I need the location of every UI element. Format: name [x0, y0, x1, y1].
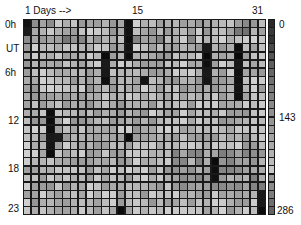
heatmap-cell: [219, 77, 225, 84]
heatmap-cell: [55, 191, 61, 198]
heatmap-cell: [87, 36, 93, 43]
heatmap-cell: [235, 150, 241, 157]
heatmap-cell: [40, 199, 46, 206]
heatmap-cell: [47, 85, 53, 92]
heatmap-cell: [243, 110, 249, 117]
heatmap-cell: [204, 53, 210, 60]
heatmap-cell: [251, 175, 257, 182]
heatmap-cell: [157, 93, 163, 100]
heatmap-grid: [23, 19, 266, 215]
heatmap-cell: [204, 20, 210, 27]
heatmap-cell: [24, 191, 30, 198]
heatmap-cell: [126, 183, 132, 190]
heatmap-cell: [102, 150, 108, 157]
heatmap-cell: [47, 183, 53, 190]
heatmap-cell: [149, 28, 155, 35]
heatmap-cell: [63, 134, 69, 141]
heatmap-cell: [157, 167, 163, 174]
heatmap-cell: [118, 175, 124, 182]
heatmap-cell: [227, 28, 233, 35]
heatmap-cell: [157, 77, 163, 84]
heatmap-cell: [71, 20, 77, 27]
y-tick-12: 12: [8, 116, 19, 126]
y-axis-label-ut: UT: [6, 44, 19, 54]
heatmap-cell: [235, 191, 241, 198]
heatmap-cell: [227, 118, 233, 125]
heatmap-cell: [141, 118, 147, 125]
heatmap-cell: [196, 207, 202, 214]
heatmap-cell: [251, 134, 257, 141]
heatmap-cell: [63, 53, 69, 60]
heatmap-cell: [133, 77, 139, 84]
colorbar-block: [269, 134, 274, 141]
heatmap-cell: [259, 93, 265, 100]
heatmap-cell: [212, 199, 218, 206]
heatmap-cell: [63, 85, 69, 92]
heatmap-cell: [204, 183, 210, 190]
heatmap-cell: [94, 126, 100, 133]
colorbar-tick-0: 0: [279, 20, 285, 30]
heatmap-cell: [180, 44, 186, 51]
heatmap-cell: [227, 207, 233, 214]
heatmap-cell: [212, 183, 218, 190]
heatmap-cell: [243, 36, 249, 43]
heatmap-cell: [259, 61, 265, 68]
heatmap-cell: [219, 158, 225, 165]
heatmap-cell: [173, 36, 179, 43]
heatmap-cell: [227, 93, 233, 100]
heatmap-cell: [133, 207, 139, 214]
heatmap-cell: [32, 142, 38, 149]
heatmap-cell: [251, 44, 257, 51]
heatmap-cell: [110, 207, 116, 214]
heatmap-cell: [157, 118, 163, 125]
heatmap-cell: [94, 44, 100, 51]
heatmap-cell: [24, 183, 30, 190]
heatmap-cell: [126, 175, 132, 182]
heatmap-cell: [235, 126, 241, 133]
heatmap-cell: [126, 61, 132, 68]
heatmap-cell: [227, 199, 233, 206]
heatmap-cell: [24, 150, 30, 157]
heatmap-cell: [63, 175, 69, 182]
heatmap-cell: [196, 61, 202, 68]
heatmap-cell: [141, 53, 147, 60]
colorbar-block: [269, 199, 274, 206]
heatmap-cell: [47, 191, 53, 198]
heatmap-cell: [133, 110, 139, 117]
heatmap-cell: [243, 20, 249, 27]
colorbar-block: [269, 61, 274, 68]
heatmap-cell: [251, 36, 257, 43]
heatmap-cell: [157, 142, 163, 149]
heatmap-cell: [204, 61, 210, 68]
heatmap-cell: [71, 44, 77, 51]
heatmap-cell: [133, 118, 139, 125]
heatmap-cell: [55, 53, 61, 60]
heatmap-cell: [94, 77, 100, 84]
heatmap-cell: [32, 69, 38, 76]
heatmap-cell: [47, 126, 53, 133]
heatmap-cell: [63, 191, 69, 198]
heatmap-cell: [126, 77, 132, 84]
heatmap-cell: [118, 150, 124, 157]
heatmap-cell: [24, 101, 30, 108]
heatmap-cell: [251, 85, 257, 92]
heatmap-cell: [149, 158, 155, 165]
heatmap-cell: [47, 53, 53, 60]
heatmap-cell: [110, 150, 116, 157]
heatmap-cell: [32, 53, 38, 60]
heatmap-cell: [118, 199, 124, 206]
heatmap-cell: [141, 85, 147, 92]
heatmap-cell: [212, 77, 218, 84]
heatmap-cell: [165, 110, 171, 117]
heatmap-cell: [126, 191, 132, 198]
heatmap-cell: [212, 134, 218, 141]
heatmap-cell: [251, 126, 257, 133]
heatmap-cell: [79, 118, 85, 125]
heatmap-cell: [235, 69, 241, 76]
heatmap-cell: [102, 183, 108, 190]
heatmap-cell: [204, 142, 210, 149]
heatmap-cell: [133, 150, 139, 157]
heatmap-cell: [165, 199, 171, 206]
heatmap-cell: [63, 207, 69, 214]
heatmap-cell: [227, 183, 233, 190]
